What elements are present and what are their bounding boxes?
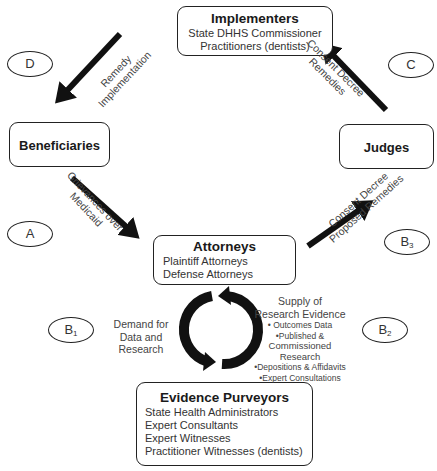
supply-line-7: •Expert Consultations — [248, 373, 352, 384]
demand-line-3: Research — [106, 343, 176, 356]
phase-b3: B3 — [384, 229, 430, 255]
evidence-purveyors-line-1: State Health Administrators — [145, 406, 312, 419]
node-judges: Judges — [339, 124, 434, 169]
evidence-purveyors-title: Evidence Purveyors — [137, 390, 312, 406]
phase-b3-label: B — [400, 234, 409, 249]
demand-line-2: Data and — [106, 331, 176, 344]
evidence-purveyors-line-3: Expert Witnesses — [145, 432, 312, 445]
phase-d: D — [7, 51, 53, 77]
phase-b3-sub: 3 — [409, 241, 413, 250]
phase-b2-sub: 2 — [387, 329, 391, 338]
supply-line-3: • Outcomes Data — [248, 320, 352, 331]
supply-line-5: Commissioned Research — [248, 341, 352, 362]
node-beneficiaries: Beneficiaries — [9, 122, 110, 167]
evidence-purveyors-line-4: Practitioner Witnesses (dentists) — [145, 445, 312, 458]
attorneys-line-2: Defense Attorneys — [163, 268, 295, 281]
phase-a: A — [7, 221, 53, 247]
judges-title: Judges — [340, 139, 433, 154]
node-evidence-purveyors: Evidence Purveyors State Health Administ… — [136, 382, 313, 466]
phase-d-label: D — [25, 56, 34, 71]
node-attorneys: Attorneys Plaintiff Attorneys Defense At… — [153, 235, 296, 285]
cycle-supply-text: Supply of Research Evidence • Outcomes D… — [248, 295, 352, 383]
phase-a-label: A — [26, 226, 35, 241]
phase-b2-label: B — [378, 322, 387, 337]
phase-c-label: C — [406, 57, 415, 72]
attorneys-line-1: Plaintiff Attorneys — [163, 255, 295, 268]
demand-line-1: Demand for — [106, 318, 176, 331]
attorneys-title: Attorneys — [154, 239, 295, 255]
implementers-title: Implementers — [178, 11, 332, 27]
phase-c: C — [388, 52, 434, 78]
diagram-canvas: Implementers State DHHS Commissioner Pra… — [0, 0, 437, 471]
phase-b1: B1 — [48, 317, 94, 343]
cycle-demand-text: Demand for Data and Research — [106, 318, 176, 356]
phase-b2: B2 — [362, 317, 408, 343]
phase-b1-label: B — [64, 322, 73, 337]
evidence-purveyors-line-2: Expert Consultants — [145, 419, 312, 432]
supply-line-6: •Depositions & Affidavits — [248, 362, 352, 373]
supply-line-1: Supply of — [248, 295, 352, 308]
cycle-arrows-icon — [184, 286, 258, 371]
beneficiaries-title: Beneficiaries — [10, 137, 109, 152]
phase-b1-sub: 1 — [73, 329, 77, 338]
supply-line-2: Research Evidence — [248, 308, 352, 321]
